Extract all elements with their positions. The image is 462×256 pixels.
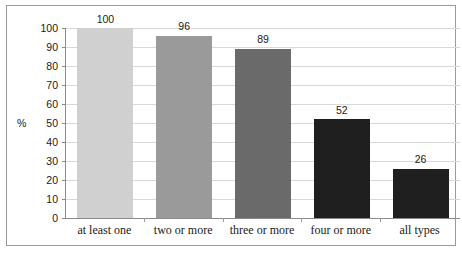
bar-value-label: 26	[415, 154, 427, 165]
y-tick-label: 20	[14, 175, 58, 186]
bar-chart-figure: % 0102030405060708090100 10096895226 at …	[0, 0, 462, 256]
y-tick-label: 80	[14, 61, 58, 72]
y-tick-mark	[62, 218, 66, 219]
plot-area: 10096895226	[65, 28, 459, 218]
bar-slot: 26	[381, 28, 460, 218]
bar	[77, 28, 133, 218]
x-tick-label: three or more	[223, 224, 302, 236]
bar-value-label: 100	[97, 14, 115, 25]
x-tick-label: at least one	[65, 224, 144, 236]
bar-slot: 89	[224, 28, 303, 218]
y-tick-label: 0	[14, 213, 58, 224]
x-tick-mark	[223, 218, 224, 222]
x-tick-mark	[380, 218, 381, 222]
bar-slot: 96	[145, 28, 224, 218]
bar-slot: 52	[302, 28, 381, 218]
bar	[156, 36, 212, 218]
bar-value-label: 96	[178, 21, 190, 32]
x-tick-mark	[301, 218, 302, 222]
bar	[314, 119, 370, 218]
y-tick-label: 90	[14, 42, 58, 53]
y-tick-label: 100	[14, 23, 58, 34]
chart-frame: % 0102030405060708090100 10096895226 at …	[6, 5, 456, 246]
y-tick-label: 70	[14, 80, 58, 91]
y-tick-label: 40	[14, 137, 58, 148]
x-tick-label: two or more	[144, 224, 223, 236]
bar-value-label: 52	[336, 105, 348, 116]
y-tick-label: 50	[14, 118, 58, 129]
axis-baseline	[66, 218, 460, 219]
x-tick-label: four or more	[301, 224, 380, 236]
bar-slot: 100	[66, 28, 145, 218]
y-tick-label: 10	[14, 194, 58, 205]
bar-value-label: 89	[257, 34, 269, 45]
x-tick-label: all types	[380, 224, 459, 236]
y-tick-label: 60	[14, 99, 58, 110]
bar	[393, 169, 449, 218]
x-tick-mark	[144, 218, 145, 222]
y-tick-label: 30	[14, 156, 58, 167]
bar	[235, 49, 291, 218]
